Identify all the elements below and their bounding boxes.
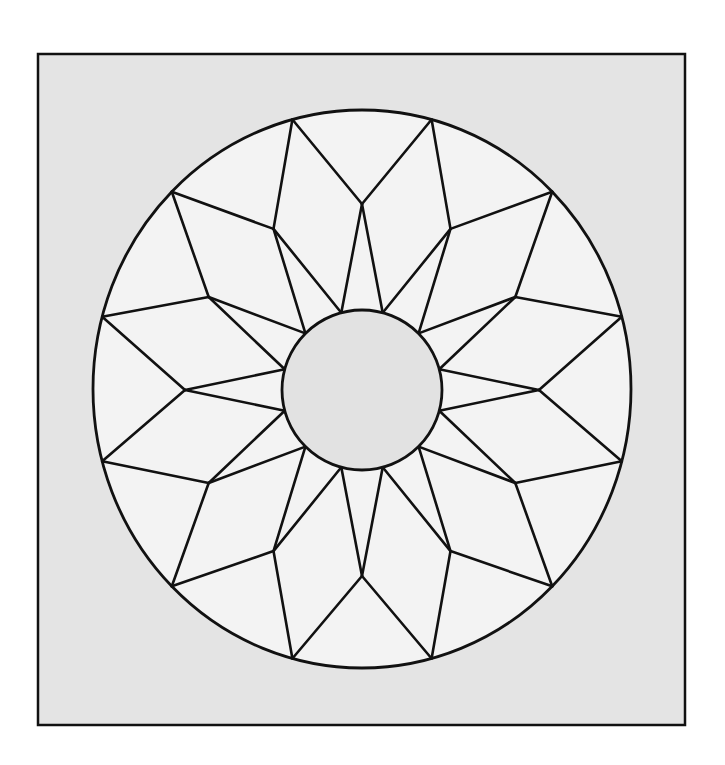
diagram-canvas [0,0,725,765]
inner-circle [282,310,442,470]
star-quilt-diagram [0,0,725,765]
